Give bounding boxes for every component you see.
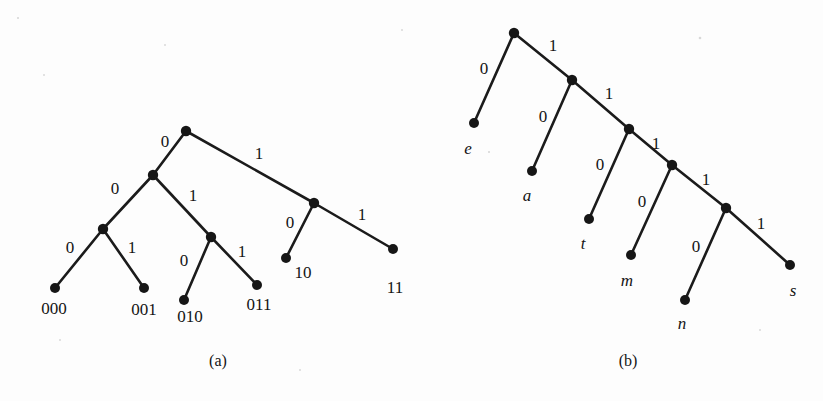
- leaf-label-b-1: a: [523, 186, 532, 205]
- tree-node-b-b-m: [626, 250, 636, 260]
- leaf-label-b-2: t: [581, 234, 587, 253]
- panel-caption-a: (a): [209, 352, 227, 370]
- leaf-label-a-2: 010: [177, 307, 203, 326]
- edges-layer: [55, 33, 790, 300]
- edge-bit-label-a-a-n00-a-n000: 0: [66, 238, 75, 257]
- panel-caption-b: (b): [619, 352, 638, 370]
- edge-bit-label-b-b-i2-b-t: 0: [596, 155, 605, 174]
- edge-bit-label-b-b-i1-b-i2: 1: [605, 84, 614, 103]
- edge-bit-label-a-a-n0-a-n01: 1: [189, 186, 198, 205]
- edge-bit-label-a-a-root-a-n1: 1: [255, 144, 264, 163]
- edge-bit-label-b-b-i3-b-i4: 1: [702, 170, 711, 189]
- tree-node-a-a-n1: [309, 198, 319, 208]
- leaf-label-a-3: 011: [247, 295, 272, 314]
- tree-edge-b-b-i1-b-i2: [572, 80, 629, 129]
- tree-node-a-a-n000: [50, 283, 60, 293]
- tree-node-a-a-n01: [206, 232, 216, 242]
- tree-node-b-b-t: [584, 214, 594, 224]
- edge-bit-label-a-a-n00-a-n001: 1: [128, 238, 137, 257]
- tree-node-b-b-i2: [624, 124, 634, 134]
- edge-bit-label-b-b-i4-b-s: 1: [757, 214, 766, 233]
- nodes-layer: [50, 28, 795, 305]
- edge-bit-label-a-a-n1-a-n11: 1: [358, 205, 367, 224]
- tree-node-b-b-i1: [567, 75, 577, 85]
- tree-edge-a-a-n00-a-n001: [103, 229, 144, 288]
- tree-edge-b-b-root-b-e: [474, 33, 514, 123]
- edge-bit-label-a-a-n01-a-n010: 0: [180, 251, 189, 270]
- leaf-label-a-4: 10: [295, 263, 312, 282]
- leaf-label-b-3: m: [621, 271, 633, 290]
- captions-layer: (a)(b): [209, 352, 637, 370]
- tree-edge-a-a-root-a-n0: [153, 131, 186, 175]
- leaf-label-b-0: e: [464, 139, 472, 158]
- tree-edge-b-b-i2-b-t: [589, 129, 629, 219]
- tree-node-a-a-n11: [388, 244, 398, 254]
- tree-edge-a-a-n00-a-n000: [55, 229, 103, 288]
- edge-bit-label-a-a-n1-a-n10: 0: [286, 213, 295, 232]
- tree-node-b-b-root: [509, 28, 519, 38]
- leaf-label-a-1: 001: [131, 300, 157, 319]
- tree-node-a-a-n00: [98, 224, 108, 234]
- tree-edge-b-b-root-b-i1: [514, 33, 572, 80]
- leaf-label-b-5: s: [790, 281, 797, 300]
- edge-bit-label-b-b-root-b-i1: 1: [549, 36, 558, 55]
- tree-node-b-b-a: [527, 166, 537, 176]
- tree-edge-b-b-i3-b-i4: [672, 165, 726, 208]
- tree-edge-a-a-n0-a-n01: [153, 175, 211, 237]
- tree-edge-a-a-n1-a-n11: [314, 203, 393, 249]
- leaf-label-a-5: 11: [387, 278, 403, 297]
- tree-node-b-b-n: [680, 295, 690, 305]
- tree-node-b-b-s: [785, 260, 795, 270]
- tree-node-a-a-root: [181, 126, 191, 136]
- edge-bit-label-a-a-n0-a-n00: 0: [111, 179, 120, 198]
- tree-node-a-a-n10: [281, 253, 291, 263]
- tree-node-a-a-n011: [252, 280, 262, 290]
- tree-node-b-b-i4: [721, 203, 731, 213]
- edge-bit-label-b-b-i4-b-n: 0: [692, 237, 701, 256]
- edge-bit-label-a-a-n01-a-n011: 1: [238, 242, 247, 261]
- figure-binary-code-trees: 01010101010101010101 0000010100111011eat…: [0, 0, 823, 401]
- tree-node-a-a-n001: [139, 283, 149, 293]
- trees-svg: 01010101010101010101 0000010100111011eat…: [0, 0, 823, 401]
- tree-node-a-a-n010: [179, 295, 189, 305]
- edge-bit-label-b-b-root-b-e: 0: [480, 59, 489, 78]
- paper-specks: [17, 17, 761, 371]
- tree-node-b-b-e: [469, 118, 479, 128]
- edge-bit-label-b-b-i1-b-a: 0: [539, 107, 548, 126]
- edge-bit-label-b-b-i2-b-i3: 1: [652, 134, 661, 153]
- tree-edge-b-b-i2-b-i3: [629, 129, 672, 165]
- tree-node-a-a-n0: [148, 170, 158, 180]
- leaf-label-a-0: 000: [41, 299, 67, 318]
- edge-bit-label-b-b-i3-b-m: 0: [638, 192, 647, 211]
- tree-edge-a-a-root-a-n1: [186, 131, 314, 203]
- edge-bit-label-a-a-root-a-n0: 0: [161, 132, 170, 151]
- tree-node-b-b-i3: [667, 160, 677, 170]
- tree-edge-a-a-n01-a-n011: [211, 237, 257, 285]
- leaf-label-b-4: n: [678, 314, 687, 333]
